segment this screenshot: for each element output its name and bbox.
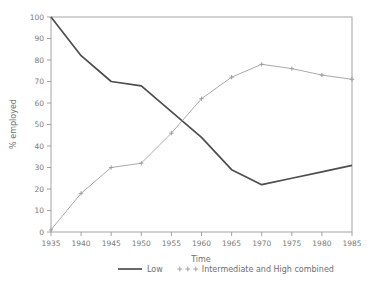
- chart-container: 0102030405060708090100 19351940194519501…: [0, 0, 377, 288]
- legend-item-intermediate-high[interactable]: Intermediate and High combined: [177, 265, 334, 274]
- chart-legend: LowIntermediate and High combined: [118, 265, 334, 274]
- y-tick-label: 90: [34, 34, 44, 43]
- y-tick-label: 0: [39, 228, 44, 237]
- y-axis-title: % employed: [9, 99, 18, 149]
- x-tick-label: 1975: [282, 239, 301, 248]
- x-tick-label: 1935: [41, 239, 60, 248]
- series-layer: [49, 17, 354, 232]
- y-tick-label: 10: [34, 206, 44, 215]
- x-tick-label: 1965: [222, 239, 241, 248]
- x-tick-label: 1985: [342, 239, 361, 248]
- y-tick-label: 60: [34, 99, 44, 108]
- line-chart: 0102030405060708090100 19351940194519501…: [0, 0, 377, 288]
- y-axis-ticks: 0102030405060708090100: [30, 13, 51, 237]
- y-tick-label: 30: [34, 163, 44, 172]
- y-tick-label: 50: [34, 120, 44, 129]
- x-tick-label: 1960: [192, 239, 211, 248]
- y-tick-label: 100: [30, 13, 45, 22]
- legend-label: Low: [147, 265, 163, 274]
- plot-frame: [51, 17, 352, 232]
- legend-item-low[interactable]: Low: [118, 265, 163, 274]
- x-axis-ticks: 1935194019451950195519601965197019751980…: [41, 232, 361, 248]
- x-tick-label: 1980: [312, 239, 331, 248]
- y-tick-label: 20: [34, 185, 44, 194]
- x-tick-label: 1955: [162, 239, 181, 248]
- y-tick-label: 70: [34, 77, 44, 86]
- axis-frame: [51, 17, 352, 232]
- series-intermediate-high: [49, 62, 354, 232]
- x-tick-label: 1940: [72, 239, 91, 248]
- x-axis-title: Time: [190, 255, 211, 264]
- x-tick-label: 1945: [102, 239, 121, 248]
- x-tick-label: 1970: [252, 239, 271, 248]
- x-tick-label: 1950: [132, 239, 151, 248]
- legend-label: Intermediate and High combined: [202, 265, 334, 274]
- y-tick-label: 40: [34, 142, 44, 151]
- y-tick-label: 80: [34, 56, 44, 65]
